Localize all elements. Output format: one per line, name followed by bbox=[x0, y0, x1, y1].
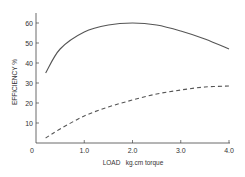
dashed-efficiency-curve bbox=[46, 86, 229, 138]
x-tick-label: 1.0 bbox=[79, 147, 89, 154]
x-tick-label: 4.0 bbox=[224, 147, 234, 154]
y-tick-label: 10 bbox=[25, 120, 33, 127]
y-ticks: 102030405060 bbox=[25, 20, 39, 127]
solid-efficiency-curve bbox=[46, 23, 229, 73]
series bbox=[46, 23, 229, 138]
y-tick-label: 20 bbox=[25, 100, 33, 107]
x-tick-label: 2.0 bbox=[128, 147, 138, 154]
x-tick-label: 3.0 bbox=[176, 147, 186, 154]
x-tick-label: 0 bbox=[30, 147, 34, 154]
y-axis-title: EFFICIENCY % bbox=[11, 59, 18, 105]
y-tick-label: 60 bbox=[25, 20, 33, 27]
efficiency-chart: 102030405060 01.02.03.04.0 EFFICIENCY % … bbox=[0, 0, 245, 177]
x-ticks: 01.02.03.04.0 bbox=[30, 140, 234, 154]
axes bbox=[36, 13, 230, 143]
x-axis-title: LOAD kg.cm torque bbox=[103, 159, 164, 167]
y-tick-label: 30 bbox=[25, 80, 33, 87]
y-tick-label: 40 bbox=[25, 60, 33, 67]
y-tick-label: 50 bbox=[25, 40, 33, 47]
